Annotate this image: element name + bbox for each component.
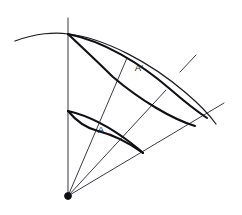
outer-patch-lower-arc — [68, 34, 195, 126]
apex-point-marker — [65, 193, 72, 200]
ray-lower-boundary-line — [68, 103, 224, 196]
arc-group — [15, 33, 216, 153]
area-mapping-diagram: Curved sector with two corresponding are… — [0, 0, 242, 215]
diagram-canvas: Curved sector with two corresponding are… — [0, 0, 242, 215]
inner-patch-label: A — [98, 124, 105, 135]
ray-upper-boundary-short-line — [180, 55, 196, 72]
outer-patch-label: A′ — [135, 62, 144, 73]
outer-patch-upper-arc — [68, 34, 207, 118]
apex-group — [65, 193, 72, 200]
inner-patch-lower-arc — [68, 111, 143, 153]
